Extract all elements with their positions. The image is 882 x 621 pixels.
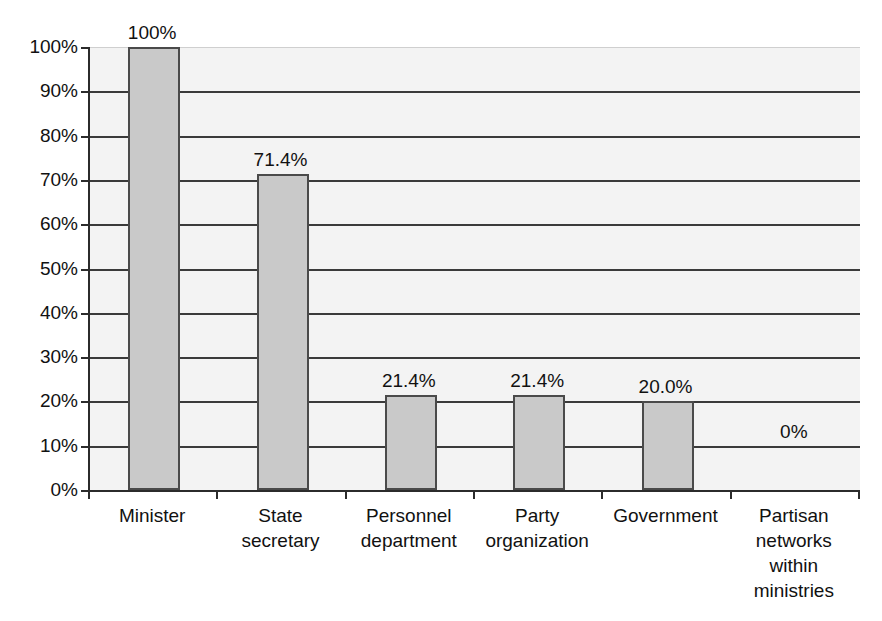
gridline [90,313,860,315]
y-tick-mark [81,490,88,492]
bar[interactable] [128,47,180,490]
y-tick-label: 70% [0,170,78,189]
y-tick-mark [81,47,88,49]
x-category-label: Minister [88,503,216,528]
gridline [90,91,860,93]
x-category-label-line: department [345,528,473,553]
gridline [90,47,860,48]
gridline [90,357,860,359]
gridline [90,446,860,448]
x-category-label-line: ministries [730,578,858,603]
bar-value-label: 71.4% [211,150,351,170]
x-category-label-line: Government [601,503,729,528]
bar[interactable] [642,401,694,490]
x-tick-mark [473,490,475,499]
x-category-label-line: within [730,553,858,578]
gridline [90,224,860,226]
y-axis: 0%10%20%30%40%50%60%70%80%90%100% [0,0,78,621]
x-tick-mark [216,490,218,499]
y-tick-label: 100% [0,37,78,56]
x-category-label: Statesecretary [216,503,344,553]
y-tick-label: 40% [0,303,78,322]
y-tick-label: 60% [0,214,78,233]
x-category-label-line: secretary [216,528,344,553]
y-tick-mark [81,91,88,93]
bar[interactable] [513,395,565,490]
x-category-label: Partyorganization [473,503,601,553]
x-tick-mark [858,490,860,499]
bar-chart-figure: . . . 0%10%20%30%40%50%60%70%80%90%100% … [0,0,882,621]
x-category-label-line: Personnel [345,503,473,528]
y-tick-label: 10% [0,436,78,455]
x-category-label-line: State [216,503,344,528]
y-tick-label: 50% [0,259,78,278]
bar-value-label: 100% [82,23,222,43]
x-category-label: Government [601,503,729,528]
gridline [90,136,860,138]
x-category-label-line: organization [473,528,601,553]
x-tick-mark [730,490,732,499]
y-tick-mark [81,357,88,359]
y-tick-mark [81,136,88,138]
y-tick-mark [81,269,88,271]
y-tick-mark [81,180,88,182]
x-category-label: Partisannetworkswithinministries [730,503,858,603]
gridline [90,269,860,271]
bar-value-label: 21.4% [339,371,479,391]
x-tick-mark [601,490,603,499]
y-tick-mark [81,446,88,448]
gridline [90,401,860,403]
y-tick-label: 80% [0,126,78,145]
bar-value-label: 21.4% [467,371,607,391]
y-tick-label: 20% [0,391,78,410]
bar-value-label: 20.0% [596,377,736,397]
x-tick-mark [345,490,347,499]
x-tick-mark [88,490,90,499]
y-tick-mark [81,401,88,403]
gridline [90,180,860,182]
chart-title-remnant: . . . [0,0,882,1]
x-category-label: Personneldepartment [345,503,473,553]
y-tick-label: 90% [0,81,78,100]
x-category-label-line: Partisan [730,503,858,528]
y-tick-label: 0% [0,480,78,499]
y-tick-mark [81,224,88,226]
y-tick-mark [81,313,88,315]
x-category-label-line: Party [473,503,601,528]
bar[interactable] [385,395,437,490]
x-category-label-line: Minister [88,503,216,528]
bar[interactable] [257,174,309,490]
y-tick-label: 30% [0,347,78,366]
bar-value-label: 0% [724,422,864,442]
x-category-label-line: networks [730,528,858,553]
